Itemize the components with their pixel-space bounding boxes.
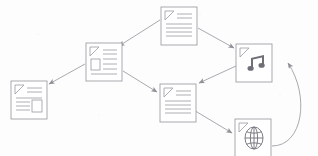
image-document-node-left[interactable] bbox=[11, 81, 47, 119]
audio-file-node[interactable] bbox=[236, 44, 272, 82]
text-document-node[interactable] bbox=[161, 7, 197, 45]
image-document-node[interactable] bbox=[86, 43, 122, 81]
diagram-canvas bbox=[0, 0, 318, 156]
node-layer bbox=[0, 0, 318, 156]
text-document-node-center[interactable] bbox=[160, 84, 196, 122]
web-page-node[interactable] bbox=[235, 119, 271, 156]
